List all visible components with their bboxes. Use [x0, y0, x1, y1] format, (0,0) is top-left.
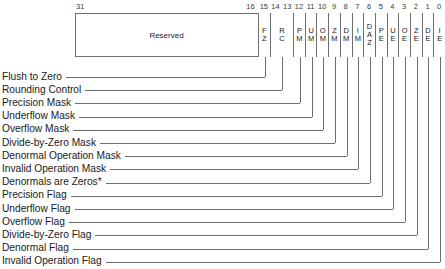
bit-number-4: 4: [387, 2, 399, 11]
mxcsr-register-diagram: 31 161514131211109876543210 Reserved F Z…: [0, 0, 445, 269]
leader-line-h-pe: [71, 196, 382, 197]
leader-line-v-fz: [265, 57, 266, 77]
field-um: U M: [305, 13, 317, 57]
field-de: D E: [422, 13, 434, 57]
field-zm-label: Z M: [331, 27, 337, 43]
callout-im: Invalid Operation Mask: [2, 163, 106, 174]
field-ie-label: I E: [437, 27, 442, 43]
leader-line-v-zm: [335, 57, 336, 143]
field-de-label: D E: [425, 27, 430, 43]
bit-number-5: 5: [375, 2, 387, 11]
bit-number-0: 0: [433, 2, 445, 11]
bit-number-2: 2: [410, 2, 422, 11]
field-dm-label: D M: [343, 27, 349, 43]
leader-line-v-om: [323, 57, 324, 130]
field-fz-label: F Z: [262, 27, 267, 43]
field-fz: F Z: [258, 13, 270, 57]
leader-line-h-oe: [69, 222, 405, 223]
callout-daz: Denormals are Zeros*: [2, 176, 102, 187]
leader-line-v-rc: [282, 57, 283, 90]
bit-number-9: 9: [328, 2, 340, 11]
leader-line-h-ue: [75, 209, 393, 210]
field-zm: Z M: [328, 13, 340, 57]
field-pm: P M: [293, 13, 305, 57]
callout-um: Underflow Mask: [2, 110, 75, 121]
callout-oe: Overflow Flag: [2, 216, 65, 227]
bit-number-6: 6: [363, 2, 375, 11]
bit-number-3: 3: [398, 2, 410, 11]
bit-number-31: 31: [76, 2, 96, 11]
field-ue-label: U E: [390, 27, 395, 43]
bit-number-15: 15: [258, 2, 270, 11]
field-rc: R C: [270, 13, 293, 57]
field-dm: D M: [340, 13, 352, 57]
callout-de: Denormal Flag: [2, 242, 69, 253]
leader-line-v-daz: [370, 57, 371, 183]
bit-number-13: 13: [281, 2, 293, 11]
bit-number-11: 11: [305, 2, 317, 11]
leader-line-h-de: [73, 249, 428, 250]
leader-line-v-ue: [393, 57, 394, 209]
leader-line-v-oe: [405, 57, 406, 222]
field-rc-label: R C: [279, 27, 284, 43]
callout-rc: Rounding Control: [2, 84, 81, 95]
leader-line-v-de: [428, 57, 429, 249]
callout-fz: Flush to Zero: [2, 71, 62, 82]
field-pm-label: P M: [296, 27, 302, 43]
bit-number-12: 12: [293, 2, 305, 11]
field-oe-label: O E: [402, 27, 408, 43]
leader-line-h-rc: [85, 90, 281, 91]
leader-line-v-ie: [440, 57, 441, 262]
callout-ue: Underflow Flag: [2, 203, 71, 214]
field-om-label: O M: [320, 27, 326, 43]
leader-line-h-daz: [106, 183, 370, 184]
leader-line-v-dm: [347, 57, 348, 156]
leader-line-v-pe: [382, 57, 383, 196]
bit-number-7: 7: [352, 2, 364, 11]
bit-number-14: 14: [270, 2, 282, 11]
leader-line-h-om: [73, 130, 322, 131]
leader-line-h-im: [110, 169, 357, 170]
bit-number-10: 10: [316, 2, 328, 11]
field-daz: D A Z: [363, 13, 375, 57]
leader-line-v-um: [312, 57, 313, 117]
field-im-label: I M: [355, 27, 361, 43]
field-um-label: U M: [308, 27, 314, 43]
callout-pe: Precision Flag: [2, 189, 67, 200]
leader-line-h-ze: [95, 235, 416, 236]
field-pe: P E: [375, 13, 387, 57]
callout-pm: Precision Mask: [2, 97, 71, 108]
bit-number-16: 16: [244, 2, 257, 11]
leader-line-h-fz: [66, 77, 264, 78]
field-daz-label: D A Z: [367, 23, 372, 48]
field-ue: U E: [387, 13, 399, 57]
field-im: I M: [352, 13, 364, 57]
field-ie: I E: [433, 13, 445, 57]
leader-line-h-dm: [125, 156, 347, 157]
leader-line-h-pm: [75, 103, 299, 104]
field-reserved: Reserved: [75, 13, 258, 57]
callout-ze: Divide-by-Zero Flag: [2, 229, 91, 240]
leader-line-h-um: [79, 117, 311, 118]
field-reserved-label: Reserved: [149, 31, 183, 40]
callout-om: Overflow Mask: [2, 123, 69, 134]
leader-line-h-zm: [100, 143, 335, 144]
bit-number-8: 8: [340, 2, 352, 11]
field-om: O M: [316, 13, 328, 57]
leader-line-v-ze: [417, 57, 418, 235]
leader-line-v-pm: [300, 57, 301, 103]
callout-zm: Divide-by-Zero Mask: [2, 137, 96, 148]
field-ze-label: Z E: [414, 27, 419, 43]
callout-dm: Denormal Operation Mask: [2, 150, 121, 161]
callout-ie: Invalid Operation Flag: [2, 255, 102, 266]
field-oe: O E: [398, 13, 410, 57]
leader-line-v-im: [358, 57, 359, 169]
bit-number-1: 1: [422, 2, 434, 11]
field-pe-label: P E: [379, 27, 384, 43]
leader-line-h-ie: [106, 262, 440, 263]
field-ze: Z E: [410, 13, 422, 57]
